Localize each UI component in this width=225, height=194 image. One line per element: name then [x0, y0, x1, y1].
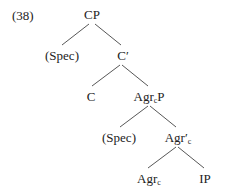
edge-agrcbar-agrc — [148, 147, 176, 168]
node-spec-2: (Spec) — [102, 131, 136, 145]
edge-cbar-c — [92, 65, 120, 86]
tree-branches — [0, 0, 225, 194]
node-agrc-main: Agr — [137, 171, 157, 186]
edge-cbar-agrcp — [122, 65, 148, 86]
node-agrc-p-main: Agr — [133, 89, 153, 104]
node-spec-2-label: (Spec) — [102, 130, 136, 145]
edge-cp-cbar — [95, 24, 121, 45]
node-c-label: C — [87, 89, 96, 104]
node-ip: IP — [199, 172, 211, 186]
edge-agrcp-spec — [120, 106, 148, 127]
node-agrc-sub: c — [157, 178, 161, 187]
edge-agrcbar-ip — [178, 147, 204, 168]
edge-agrcp-agrcbar — [150, 106, 176, 127]
node-cp: CP — [84, 8, 100, 22]
node-spec-1: (Spec) — [45, 49, 79, 63]
node-agrc-bar-main: Agr′ — [165, 130, 188, 145]
edge-cp-spec — [62, 24, 89, 45]
node-c-bar: C′ — [117, 49, 129, 63]
node-agrc-p: AgrcP — [133, 90, 164, 104]
node-cp-label: CP — [84, 7, 100, 22]
node-c: C — [87, 90, 96, 104]
node-agrc-bar: Agr′c — [165, 131, 192, 145]
node-agrc-bar-sub: c — [188, 137, 192, 146]
node-ip-label: IP — [199, 171, 211, 186]
node-agrc: Agrc — [137, 172, 161, 186]
node-c-bar-label: C′ — [117, 48, 129, 63]
node-agrc-p-tail: P — [157, 89, 164, 104]
node-spec-1-label: (Spec) — [45, 48, 79, 63]
